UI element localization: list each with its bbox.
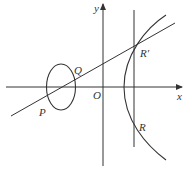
geometry-figure: y x O Q P R′ R <box>0 0 190 176</box>
y-axis-label: y <box>93 2 99 14</box>
point-r-label: R <box>138 121 146 133</box>
origin-label: O <box>93 89 101 101</box>
secant-line <box>11 23 175 116</box>
point-q-label: Q <box>74 64 82 76</box>
point-r-prime-label: R′ <box>139 47 150 59</box>
point-p-label: P <box>38 106 46 118</box>
x-axis-label: x <box>176 90 182 102</box>
